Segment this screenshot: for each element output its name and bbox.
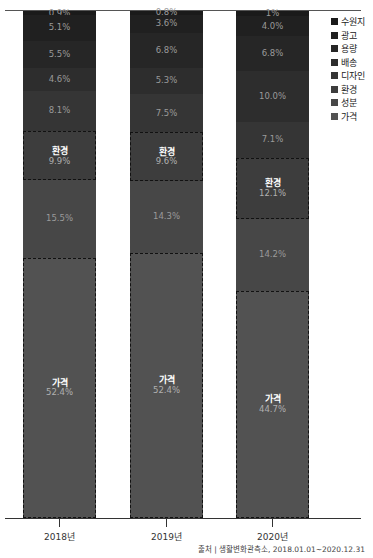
bar-segment: 4.6%	[23, 68, 96, 91]
segment-value: 14.3%	[153, 212, 180, 221]
bar-segment: 5.3%	[130, 68, 203, 95]
legend-swatch-icon	[331, 113, 338, 120]
bar-segment: 7.1%	[236, 122, 309, 158]
bar-segment: 10.0%	[236, 71, 309, 122]
segment-value: 5.1%	[49, 23, 71, 32]
segment-value: 5.3%	[156, 76, 178, 85]
legend-item: 수원지	[331, 15, 365, 29]
legend-label: 환경	[341, 83, 357, 96]
legend-swatch-icon	[331, 45, 338, 52]
bar-segment: 15.5%	[23, 180, 96, 257]
bar-segment: 환경12.1%	[236, 158, 309, 219]
bar-segment: 3.6%	[130, 15, 203, 33]
bar-segment: 8.1%	[23, 91, 96, 131]
segment-value: 6.8%	[262, 49, 284, 58]
segment-value: 44.7%	[259, 405, 286, 414]
legend-swatch-icon	[331, 32, 338, 39]
x-label-2019: 2019년	[130, 530, 203, 543]
legend-label: 디자인	[341, 69, 365, 82]
legend-item: 배송	[331, 56, 365, 70]
bar-segment: 6.8%	[236, 36, 309, 71]
legend-item: 광고	[331, 29, 365, 43]
legend-label: 가격	[341, 110, 357, 123]
bar-2018: 0.9%5.1%5.5%4.6%8.1%환경9.9%15.5%가격52.4%	[23, 11, 96, 518]
legend-item: 성분	[331, 96, 365, 110]
segment-value: 4.6%	[49, 75, 71, 84]
legend-label: 성분	[341, 96, 357, 109]
segment-value: 9.6%	[156, 157, 178, 166]
legend-label: 수원지	[341, 15, 365, 28]
bar-segment: 5.1%	[23, 15, 96, 40]
bar-segment: 가격44.7%	[236, 291, 309, 518]
source-note: 출처 | 생활변화관측소, 2018.01.01~2020.12.31	[198, 543, 365, 554]
bar-segment: 14.2%	[236, 219, 309, 291]
legend-swatch-icon	[331, 86, 338, 93]
segment-value: 9.9%	[49, 157, 71, 166]
legend-label: 용량	[341, 42, 357, 55]
bar-2019: 0.8%3.6%6.8%5.3%7.5%환경9.6%14.3%가격52.4%	[130, 11, 203, 518]
bar-segment: 환경9.9%	[23, 131, 96, 180]
bar-segment: 가격52.4%	[130, 253, 203, 518]
segment-label: 환경	[52, 146, 68, 157]
x-tick-2020	[272, 519, 273, 527]
legend-item: 가격	[331, 110, 365, 124]
segment-value: 5.5%	[49, 50, 71, 59]
segment-value: 52.4%	[46, 388, 73, 397]
legend-swatch-icon	[331, 72, 338, 79]
x-label-2018: 2018년	[23, 530, 96, 543]
bar-segment: 4.0%	[236, 16, 309, 36]
legend-swatch-icon	[331, 18, 338, 25]
legend-item: 환경	[331, 83, 365, 97]
bar-segment: 7.5%	[130, 94, 203, 132]
segment-value: 10.0%	[259, 92, 286, 101]
segment-value: 7.5%	[156, 109, 178, 118]
legend-item: 디자인	[331, 69, 365, 83]
x-tick-2019	[166, 519, 167, 527]
segment-value: 12.1%	[259, 189, 286, 198]
legend-swatch-icon	[331, 59, 338, 66]
bar-segment: 14.3%	[130, 181, 203, 253]
bar-2020: 1%4.0%6.8%10.0%7.1%환경12.1%14.2%가격44.7%	[236, 11, 309, 518]
segment-value: 4.0%	[262, 22, 284, 31]
segment-value: 14.2%	[259, 250, 286, 259]
segment-value: 6.8%	[156, 46, 178, 55]
legend-swatch-icon	[331, 99, 338, 106]
bar-segment: 5.5%	[23, 41, 96, 68]
segment-value: 52.4%	[153, 386, 180, 395]
bar-segment: 환경9.6%	[130, 132, 203, 181]
segment-value: 15.5%	[46, 214, 73, 223]
x-tick-2018	[59, 519, 60, 527]
legend-label: 배송	[341, 56, 357, 69]
bar-segment: 6.8%	[130, 33, 203, 67]
segment-value: 7.1%	[262, 135, 284, 144]
legend-label: 광고	[341, 29, 357, 42]
segment-value: 3.6%	[156, 19, 178, 28]
legend-item: 용량	[331, 42, 365, 56]
bar-segment: 가격52.4%	[23, 258, 96, 518]
chart-legend: 수원지광고용량배송디자인환경성분가격	[331, 15, 365, 123]
segment-value: 8.1%	[49, 106, 71, 115]
x-label-2020: 2020년	[236, 530, 309, 543]
